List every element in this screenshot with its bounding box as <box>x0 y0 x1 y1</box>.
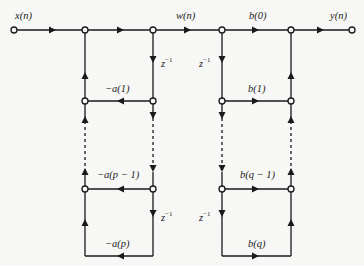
gain-a1-label: −a(1) <box>105 84 130 95</box>
gain-b1-label: b(1) <box>248 84 266 95</box>
gain-ap1-label: −a(p − 1) <box>97 170 139 181</box>
node-w <box>150 27 156 33</box>
node-ff-delay-1 <box>219 98 225 104</box>
gain-ap-label: −a(p) <box>105 239 130 250</box>
node-sum-feedback <box>82 27 88 33</box>
gain-bq-label: b(q) <box>248 239 266 250</box>
node-ff-sum-1 <box>288 98 294 104</box>
intermediate-signal-label: w(n) <box>176 11 195 22</box>
signal-flow-graph <box>0 0 364 266</box>
ff-delay-label-1: z−1 <box>199 57 211 69</box>
gain-b0-label: b(0) <box>249 11 267 22</box>
node-fb-sum-p1 <box>82 186 88 192</box>
node-delay-p1 <box>150 186 156 192</box>
node-input <box>11 27 17 33</box>
node-w-copy <box>219 27 225 33</box>
delay-label-p: z−1 <box>161 211 173 223</box>
delay-label-1: z−1 <box>161 57 173 69</box>
input-signal-label: x(n) <box>15 11 32 22</box>
node-output <box>349 27 355 33</box>
node-ff-sum-q1 <box>288 186 294 192</box>
arrowheads <box>49 27 324 260</box>
gain-bq1-label: b(q − 1) <box>240 170 275 181</box>
node-ff-delay-q1 <box>219 186 225 192</box>
ff-delay-label-q: z−1 <box>199 211 211 223</box>
node-fb-sum-1 <box>82 98 88 104</box>
node-delay-1 <box>150 98 156 104</box>
node-sum-output <box>288 27 294 33</box>
output-signal-label: y(n) <box>330 11 347 22</box>
